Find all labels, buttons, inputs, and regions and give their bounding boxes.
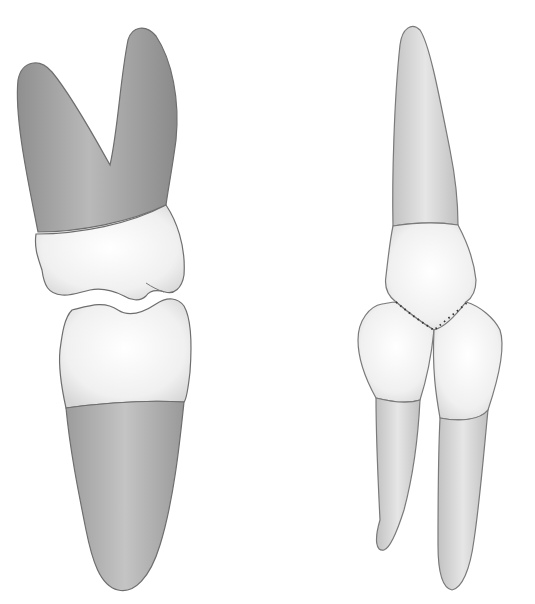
lower-premolar-root: [66, 401, 184, 590]
dental-illustration: [0, 0, 535, 604]
upper-molar-root: [17, 28, 177, 232]
upper-incisor: [385, 26, 476, 330]
lower-incisor-right-root: [438, 410, 488, 590]
lower-incisor-right: [433, 302, 502, 590]
upper-molar: [17, 28, 184, 300]
lower-incisor-left-root: [376, 398, 420, 550]
lower-incisor-left: [358, 302, 434, 550]
lower-premolar: [59, 299, 191, 591]
lower-premolar-crown: [59, 299, 191, 408]
upper-incisor-root: [393, 26, 458, 226]
